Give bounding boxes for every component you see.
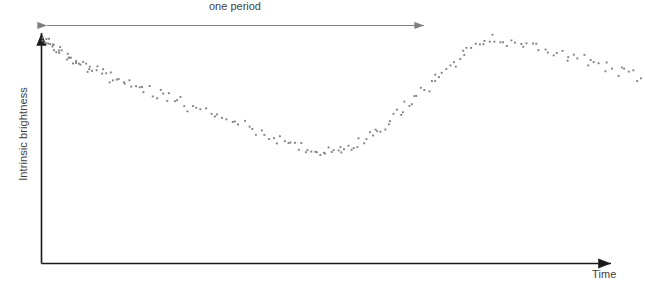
data-point (611, 68, 613, 70)
data-point (489, 41, 491, 43)
data-point (545, 49, 547, 51)
data-point (415, 95, 417, 97)
data-point (573, 54, 575, 56)
data-point (82, 61, 84, 63)
data-point (621, 67, 623, 69)
data-point (174, 100, 176, 102)
data-point (470, 47, 472, 49)
data-point (75, 62, 77, 64)
data-point (46, 38, 48, 40)
data-point (475, 43, 477, 45)
data-point (462, 50, 464, 52)
data-point (431, 80, 433, 82)
data-point (376, 130, 378, 132)
data-point (393, 113, 395, 115)
data-point (109, 81, 111, 83)
data-point (389, 120, 391, 122)
data-point (59, 46, 61, 48)
data-point (567, 56, 569, 58)
data-point (251, 128, 253, 130)
data-point (483, 40, 485, 42)
data-point (279, 135, 281, 137)
data-point (618, 75, 620, 77)
data-point (532, 43, 534, 45)
data-point (363, 142, 365, 144)
data-point (413, 95, 415, 97)
data-point (499, 41, 501, 43)
data-point (343, 148, 345, 150)
data-point (268, 138, 270, 140)
data-point (118, 78, 120, 80)
data-point (636, 80, 638, 82)
data-point (261, 129, 263, 131)
data-point (307, 149, 309, 151)
data-point (91, 70, 93, 72)
data-point (58, 50, 60, 52)
data-point (112, 79, 114, 81)
data-point (632, 69, 634, 71)
data-point (604, 70, 606, 72)
data-point (463, 54, 465, 56)
data-point (101, 73, 103, 75)
data-point (369, 131, 371, 133)
data-point (365, 138, 367, 140)
data-point (520, 43, 522, 45)
data-point (583, 54, 585, 56)
data-point (353, 147, 355, 149)
light-curve-figure: Intrinsic brightness Time one period (0, 0, 645, 286)
data-point (135, 85, 137, 87)
data-point (42, 40, 44, 42)
data-point (380, 131, 382, 133)
data-point (396, 109, 398, 111)
data-point (168, 92, 170, 94)
data-point (598, 62, 600, 64)
data-point (590, 59, 592, 61)
data-point (606, 62, 608, 64)
data-point (441, 72, 443, 74)
data-point (429, 90, 431, 92)
data-point (273, 137, 275, 139)
data-point (351, 149, 353, 151)
data-point (305, 151, 307, 153)
data-point (96, 69, 98, 71)
data-point (79, 64, 81, 66)
data-point (53, 44, 55, 46)
data-point (183, 105, 185, 107)
data-point (510, 40, 512, 42)
data-point (75, 60, 77, 62)
data-point (156, 97, 158, 99)
data-point (244, 120, 246, 122)
data-point (176, 99, 178, 101)
x-axis-label: Time (592, 268, 616, 280)
data-point (195, 107, 197, 109)
data-point (255, 134, 257, 136)
data-point (514, 42, 516, 44)
data-point (537, 49, 539, 51)
data-point (186, 110, 188, 112)
data-point (423, 89, 425, 91)
data-point (234, 121, 236, 123)
data-point (493, 41, 495, 43)
data-point (310, 151, 312, 153)
data-point (356, 146, 358, 148)
data-point (333, 149, 335, 151)
data-point (411, 103, 413, 105)
data-point (522, 46, 524, 48)
data-point (72, 62, 74, 64)
data-point (556, 52, 558, 54)
data-point (400, 114, 402, 116)
data-point (593, 61, 595, 63)
data-point (70, 57, 72, 59)
data-point (51, 45, 53, 47)
data-point (434, 74, 436, 76)
data-point (214, 115, 216, 117)
data-point (276, 142, 278, 144)
plot-canvas (0, 0, 645, 286)
data-point (465, 47, 467, 49)
data-point (455, 66, 457, 68)
data-point (105, 72, 107, 74)
data-point (640, 77, 642, 79)
data-point (328, 146, 330, 148)
data-point (402, 111, 404, 113)
data-point (316, 151, 318, 153)
